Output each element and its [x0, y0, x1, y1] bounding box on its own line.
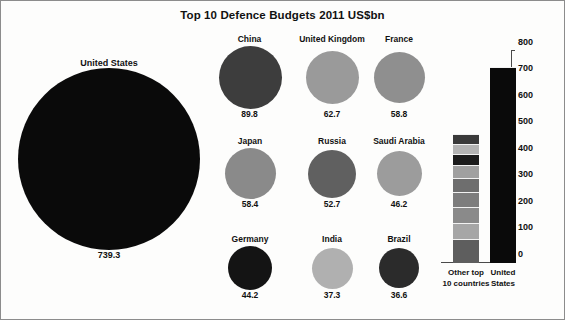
bubble-circle-brazil — [379, 248, 419, 288]
bubble-value-france: 58.8 — [369, 109, 429, 120]
bubble-value-brazil: 36.6 — [369, 290, 429, 301]
bubble-value-united-kingdom: 62.7 — [296, 109, 368, 120]
bubble-value-saudi-arabia: 46.2 — [369, 199, 429, 210]
page-title: Top 10 Defence Budgets 2011 US$bn — [1, 9, 564, 21]
bubble-label-france: France — [369, 34, 429, 44]
bubble-group-japan: Japan 58.4 — [219, 136, 281, 210]
bar-segment — [453, 144, 479, 154]
bubble-value-russia: 52.7 — [296, 199, 368, 210]
bar-segment — [453, 154, 479, 166]
bubble-label-japan: Japan — [219, 136, 281, 146]
y-tick-label-700: 700 — [518, 63, 533, 73]
y-tick-label-200: 200 — [518, 196, 533, 206]
bubble-value-japan: 58.4 — [219, 199, 281, 210]
bubble-label-united-states: United States — [11, 58, 207, 68]
bar-segment — [453, 165, 479, 177]
y-tick-label-500: 500 — [518, 116, 533, 126]
bubble-label-germany: Germany — [219, 234, 281, 244]
y-tick-label-600: 600 — [518, 90, 533, 100]
bubble-group-china: China 89.8 — [219, 34, 281, 120]
bubble-circle-japan — [225, 148, 276, 199]
y-tick-label-300: 300 — [518, 169, 533, 179]
bubble-circle-france — [374, 52, 425, 103]
bubble-label-saudi-arabia: Saudi Arabia — [369, 136, 429, 146]
bubble-group-germany: Germany 44.2 — [219, 234, 281, 301]
bar-caption-other-line2: 10 countries — [442, 279, 489, 290]
bar-segment — [453, 134, 479, 144]
bubble-circle-germany — [228, 246, 272, 290]
bar-segment — [453, 192, 479, 207]
bar-caption-united-states: United States — [491, 268, 516, 289]
bubble-group-united-states: United States 739.3 — [11, 58, 207, 261]
bubble-label-india: India — [296, 234, 368, 244]
bubble-value-india: 37.3 — [296, 290, 368, 301]
bubble-circle-china — [219, 46, 282, 109]
bar-segment — [490, 67, 516, 263]
bubble-group-saudi-arabia: Saudi Arabia 46.2 — [369, 136, 429, 210]
y-tick-label-100: 100 — [518, 222, 533, 232]
stacked-segments-united-states — [490, 67, 516, 263]
bubble-circle-saudi-arabia — [377, 151, 422, 196]
bubble-group-france: France 58.8 — [369, 34, 429, 120]
bar-segment — [453, 178, 479, 192]
bar-caption-us-line2: States — [491, 279, 516, 290]
bar-caption-us-line1: United — [491, 268, 516, 279]
bubble-group-india: India 37.3 — [296, 234, 368, 301]
bubble-value-germany: 44.2 — [219, 290, 281, 301]
bubble-value-united-states: 739.3 — [11, 250, 207, 261]
bubble-value-china: 89.8 — [219, 109, 281, 120]
bubble-label-china: China — [219, 34, 281, 44]
bubble-label-brazil: Brazil — [369, 234, 429, 244]
y-tick-label-400: 400 — [518, 143, 533, 153]
bubble-circle-united-states — [18, 68, 200, 250]
bubble-group-brazil: Brazil 36.6 — [369, 234, 429, 301]
bar-caption-other: Other top 10 countries — [442, 268, 489, 289]
bar-segment — [453, 223, 479, 240]
y-tick-800 — [511, 50, 515, 51]
bubble-circle-india — [312, 248, 353, 289]
bubble-group-united-kingdom: United Kingdom 62.7 — [296, 34, 368, 120]
stacked-segments-other — [453, 134, 479, 263]
bubble-label-russia: Russia — [296, 136, 368, 146]
bar-segment — [453, 239, 479, 263]
comparison-bar-chart: 8007006005004003002001000 Other top 10 c… — [441, 41, 561, 311]
bar-caption-other-line1: Other top — [442, 268, 489, 279]
bubble-circle-russia — [308, 150, 356, 198]
y-tick-label-800: 800 — [518, 37, 533, 47]
bubble-label-united-kingdom: United Kingdom — [296, 34, 368, 44]
infographic-figure: Top 10 Defence Budgets 2011 US$bn United… — [0, 0, 565, 320]
y-tick-label-0: 0 — [518, 249, 523, 259]
bubble-group-russia: Russia 52.7 — [296, 136, 368, 210]
bar-segment — [453, 207, 479, 223]
bubble-circle-united-kingdom — [306, 51, 359, 104]
